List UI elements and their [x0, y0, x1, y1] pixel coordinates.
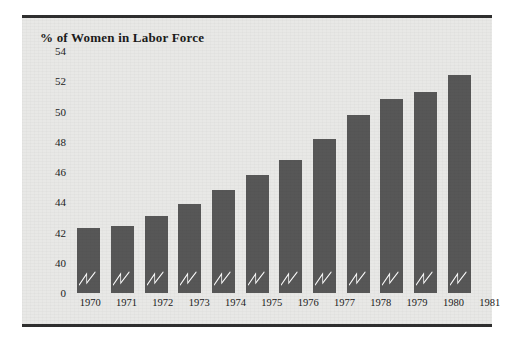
bar-slot: [308, 51, 342, 293]
x-axis-tick-label: 1980: [435, 297, 471, 308]
y-axis-tick-label: 44: [44, 196, 66, 208]
bar-slot: [139, 51, 173, 293]
bar-slot: [442, 51, 476, 293]
x-axis-tick-label: 1976: [290, 297, 326, 308]
axis-break-zigzag-icon: [281, 271, 300, 286]
bar: [380, 99, 403, 293]
bar: [77, 228, 100, 293]
plot-area: 54525048464442400: [40, 51, 476, 293]
y-axis: 54525048464442400: [40, 51, 66, 293]
y-axis-tick-label: 50: [44, 106, 66, 118]
y-axis-tick-label: 46: [44, 166, 66, 178]
bar-slot: [375, 51, 409, 293]
panel-bottom-rule: [22, 324, 492, 327]
bar: [279, 160, 302, 293]
x-axis-tick-label: 1981: [472, 297, 508, 308]
y-axis-tick-label: 42: [44, 227, 66, 239]
panel-top-rule: [22, 15, 492, 18]
chart-figure-panel: % of Women in Labor Force 54525048464442…: [22, 15, 492, 327]
axis-break-zigzag-icon: [214, 271, 233, 286]
axis-break-zigzag-icon: [315, 271, 334, 286]
bar-slot: [274, 51, 308, 293]
bar: [347, 115, 370, 293]
axis-break-zigzag-icon: [382, 271, 401, 286]
axis-break-zigzag-icon: [349, 271, 368, 286]
y-axis-tick-label: 0: [44, 287, 66, 299]
x-axis: 1970197119721973197419751976197719781979…: [72, 297, 508, 308]
axis-break-zigzag-icon: [248, 271, 267, 286]
bar: [448, 75, 471, 293]
axis-break-zigzag-icon: [450, 271, 469, 286]
bar-slot: [173, 51, 207, 293]
bar: [178, 204, 201, 293]
bar: [111, 226, 134, 293]
y-axis-tick-label: 54: [44, 45, 66, 57]
x-axis-tick-label: 1973: [181, 297, 217, 308]
x-axis-tick-label: 1979: [399, 297, 435, 308]
x-axis-tick-label: 1978: [363, 297, 399, 308]
y-axis-tick-label: 52: [44, 75, 66, 87]
bar: [414, 92, 437, 293]
y-axis-tick-label: 40: [44, 257, 66, 269]
axis-break-zigzag-icon: [113, 271, 132, 286]
axis-break-zigzag-icon: [180, 271, 199, 286]
y-axis-tick-label: 48: [44, 136, 66, 148]
bar-slot: [240, 51, 274, 293]
bar-slot: [409, 51, 443, 293]
bar: [313, 139, 336, 293]
bar-series: [72, 51, 476, 293]
x-axis-tick-label: 1975: [254, 297, 290, 308]
axis-break-zigzag-icon: [147, 271, 166, 286]
x-axis-tick-label: 1974: [217, 297, 253, 308]
bar: [145, 216, 168, 293]
bar-slot: [72, 51, 106, 293]
bar-slot: [106, 51, 140, 293]
x-axis-tick-label: 1972: [145, 297, 181, 308]
bar-slot: [341, 51, 375, 293]
x-axis-tick-label: 1970: [72, 297, 108, 308]
chart-title: % of Women in Labor Force: [40, 30, 204, 46]
bar-slot: [207, 51, 241, 293]
axis-break-zigzag-icon: [416, 271, 435, 286]
bar: [212, 190, 235, 293]
x-axis-tick-label: 1971: [108, 297, 144, 308]
bar: [246, 175, 269, 293]
axis-break-zigzag-icon: [79, 271, 98, 286]
x-axis-tick-label: 1977: [326, 297, 362, 308]
